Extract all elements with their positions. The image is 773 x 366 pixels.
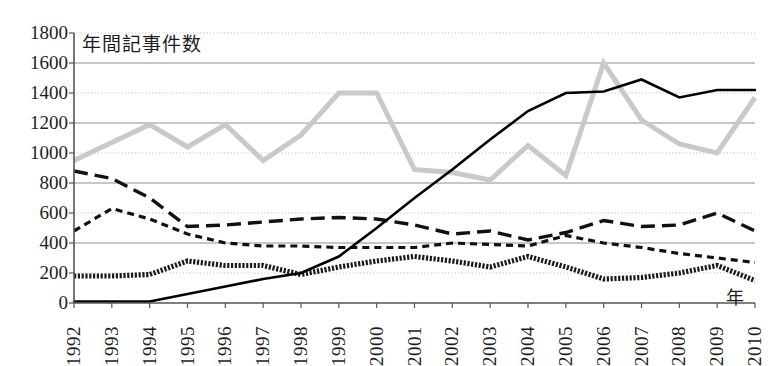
x-tick-label: 2000: [364, 306, 390, 366]
x-tick-label: 2009: [704, 306, 730, 366]
x-tick-label: 2005: [553, 306, 579, 366]
x-axis-title: 年: [726, 283, 744, 309]
x-tick-label: 1992: [61, 306, 87, 366]
x-tick-label: 2008: [666, 306, 692, 366]
x-tick-label: 1994: [137, 306, 163, 366]
x-tick-label: 1996: [212, 306, 238, 366]
x-tick-label: 2002: [439, 306, 465, 366]
x-tick-label: 2007: [629, 306, 655, 366]
x-tick-label: 2004: [515, 306, 541, 366]
x-tick-label: 2006: [591, 306, 617, 366]
x-tick-label: 1995: [175, 306, 201, 366]
x-tick-label: 2001: [402, 306, 428, 366]
x-tick-label: 1998: [288, 306, 314, 366]
x-tick-label: 1993: [99, 306, 125, 366]
x-tick-label: 1997: [250, 306, 276, 366]
y-axis-title: 年間記事件数: [82, 29, 202, 56]
x-tick-label: 1999: [326, 306, 352, 366]
x-tick-label: 2003: [477, 306, 503, 366]
x-tick-label: 2010: [742, 306, 768, 366]
